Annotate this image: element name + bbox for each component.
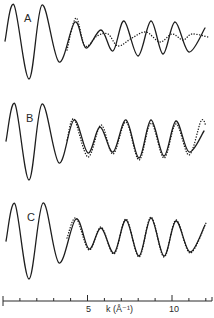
panel-b-solid-curve xyxy=(6,103,204,180)
panel-a-dotted-curve xyxy=(67,18,208,50)
x-tick-label-5: 5 xyxy=(86,305,91,314)
plot-area xyxy=(0,0,214,318)
x-axis-label: k (Å⁻¹) xyxy=(106,305,133,314)
exafs-figure: A B C 5 k (Å⁻¹) 10 xyxy=(0,0,214,318)
panel-a xyxy=(5,4,208,79)
panel-c-label: C xyxy=(27,212,35,223)
panel-b-label: B xyxy=(26,113,33,124)
x-tick-label-10: 10 xyxy=(169,305,179,314)
panel-a-label: A xyxy=(24,13,31,24)
panel-b xyxy=(6,103,206,180)
panel-c xyxy=(6,203,206,279)
panel-a-solid-curve xyxy=(5,4,205,79)
panel-c-solid-curve xyxy=(6,203,205,279)
